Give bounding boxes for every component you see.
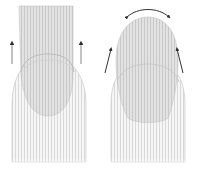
left-finger-panel — [0, 6, 98, 170]
right-arrow-left — [105, 49, 111, 73]
diagram-canvas — [0, 0, 197, 170]
right-finger-panel — [98, 10, 197, 171]
right-curved-arrow-top — [127, 10, 169, 18]
right-nail — [116, 17, 178, 123]
